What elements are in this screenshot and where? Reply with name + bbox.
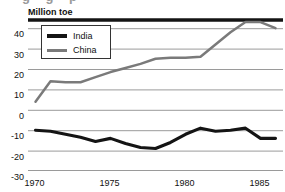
y-tick-label: 10 — [0, 90, 24, 100]
legend: India China — [41, 25, 111, 59]
y-tick-label: -10 — [0, 131, 24, 141]
legend-item-india: India — [42, 29, 110, 43]
y-tick-label: 0 — [0, 111, 24, 121]
axis-title: Million toe — [28, 7, 73, 17]
x-tick-label: 1980 — [175, 178, 195, 188]
y-tick-label: 40 — [0, 29, 24, 39]
y-tick-label: 20 — [0, 70, 24, 80]
legend-label-china: China — [73, 45, 97, 55]
y-tick-label: -30 — [0, 172, 24, 182]
legend-label-india: India — [73, 31, 93, 41]
chart-figure: g g p Million toe 403020100-10-20-30 197… — [0, 0, 285, 192]
x-tick-label: 1970 — [25, 178, 45, 188]
series-line-india — [36, 128, 276, 148]
legend-swatch-india-icon — [47, 34, 67, 38]
y-tick-label: 30 — [0, 50, 24, 60]
legend-swatch-china-icon — [47, 49, 67, 52]
y-tick-label: -20 — [0, 152, 24, 162]
x-tick-label: 1985 — [250, 178, 270, 188]
x-tick-label: 1975 — [100, 178, 120, 188]
clipped-headline-text: g g p — [22, 0, 285, 4]
legend-item-china: China — [42, 43, 110, 57]
